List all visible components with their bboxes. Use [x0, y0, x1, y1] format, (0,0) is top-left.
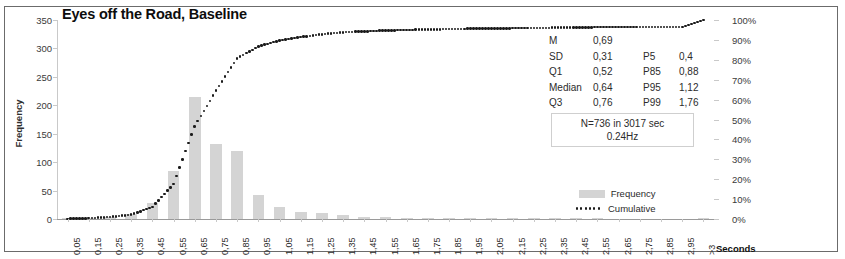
y-tick-mark	[53, 77, 57, 78]
cumulative-dot	[333, 32, 336, 35]
statistic-value: 0,52	[593, 66, 643, 82]
y2-tick-label: 100%	[732, 15, 756, 26]
cumulative-dot	[160, 196, 163, 199]
sample-size-line: N=736 in 3017 sec	[581, 117, 665, 130]
cumulative-dot	[548, 27, 551, 30]
cumulative-dot	[327, 32, 330, 35]
y2-tick-mark	[714, 159, 719, 160]
cumulative-dot	[187, 142, 190, 145]
y2-tick-label: 0%	[732, 214, 746, 225]
cumulative-dot	[209, 100, 212, 103]
x-tick-mark	[174, 219, 175, 222]
cumulative-dot	[151, 206, 154, 209]
cumulative-dot	[639, 26, 642, 29]
x-tick-mark	[619, 219, 620, 222]
x-tick-mark	[470, 219, 471, 222]
x-tick-mark	[237, 219, 238, 222]
x-tick-mark	[68, 219, 69, 222]
cumulative-dot	[118, 215, 121, 218]
y2-tick-mark	[714, 40, 719, 41]
x-tick-label: 2,65	[623, 237, 633, 255]
cumulative-dot	[215, 89, 218, 92]
x-tick-label: 1,65	[411, 237, 421, 255]
statistic-value: 0,31	[593, 51, 643, 67]
x-tick-label: 2,95	[686, 237, 696, 255]
x-tick-label: 0,85	[241, 237, 251, 255]
cumulative-dot	[442, 28, 445, 31]
x-tick-label: 0,45	[156, 237, 166, 255]
cumulative-dot	[103, 216, 106, 219]
cumulative-dot	[551, 26, 554, 29]
x-tick-label: 1,95	[474, 237, 484, 255]
cumulative-dot	[427, 28, 430, 31]
x-tick-label: 2,05	[495, 237, 505, 255]
y2-tick-mark	[714, 20, 719, 21]
cumulative-dot	[339, 31, 342, 34]
y-tick-label: 300	[6, 43, 52, 54]
y2-tick-mark	[714, 219, 719, 220]
percentile-value	[679, 35, 729, 51]
y2-tick-mark	[714, 80, 719, 81]
cumulative-dot	[312, 34, 315, 37]
cumulative-dot	[218, 85, 221, 88]
y2-tick-label: 40%	[732, 134, 751, 145]
cumulative-dot	[651, 26, 654, 29]
percentile-value: 0,88	[679, 66, 729, 82]
x-tick-mark	[576, 219, 577, 222]
cumulative-dot	[184, 150, 187, 153]
cumulative-dot	[421, 28, 424, 31]
cumulative-dot	[648, 26, 651, 29]
percentile-value: 0,4	[679, 51, 729, 67]
statistic-name: M	[549, 35, 593, 51]
cumulative-dot	[169, 186, 172, 189]
cumulative-dot	[309, 35, 312, 38]
y2-tick-label: 80%	[732, 54, 751, 65]
cumulative-dot	[554, 26, 557, 29]
statistic-name: Q3	[549, 97, 593, 113]
y2-tick-mark	[714, 60, 719, 61]
cumulative-dot	[91, 217, 94, 220]
cumulative-dot	[166, 189, 169, 192]
legend-item-frequency: Frequency	[576, 186, 656, 201]
x-tick-mark	[343, 219, 344, 222]
legend-label-frequency: Frequency	[611, 188, 656, 199]
x-tick-label: 2,55	[601, 237, 611, 255]
cumulative-dot	[203, 110, 206, 113]
x-tick-mark	[110, 219, 111, 222]
cumulative-dot	[230, 66, 233, 69]
cumulative-dot	[178, 166, 181, 169]
cumulative-dot	[533, 27, 536, 30]
cumulative-dot	[418, 28, 421, 31]
legend-dotted-line-icon	[576, 205, 602, 213]
statistic-name: Median	[549, 82, 593, 98]
x-tick-label: 1,45	[368, 237, 378, 255]
y2-tick-label: 50%	[732, 114, 751, 125]
x-tick-label: 2,85	[665, 237, 675, 255]
x-tick-mark	[703, 219, 704, 222]
cumulative-dot	[336, 32, 339, 35]
x-tick-mark	[661, 219, 662, 222]
cumulative-dot	[100, 216, 103, 219]
cumulative-dot	[430, 28, 433, 31]
y-tick-mark	[53, 219, 57, 220]
statistics-row: M0,69	[549, 35, 729, 51]
statistic-value: 0,64	[593, 82, 643, 98]
x-tick-mark	[640, 219, 641, 222]
y2-tick-label: 30%	[732, 154, 751, 165]
cumulative-dot	[539, 27, 542, 30]
x-tick-label: 0,15	[93, 237, 103, 255]
x-tick-label: 2,75	[644, 237, 654, 255]
cumulative-dot	[642, 26, 645, 29]
x-axis-label: Seconds	[716, 243, 756, 254]
cumulative-dot	[227, 71, 230, 74]
cumulative-dot	[536, 27, 539, 30]
x-tick-label: 1,55	[390, 237, 400, 255]
x-tick-mark	[280, 219, 281, 222]
chart-figure: Eyes off the Road, Baseline 050100150200…	[0, 0, 845, 259]
cumulative-dot	[654, 26, 657, 29]
x-tick-label: 0,75	[220, 237, 230, 255]
statistics-row: Q10,52P850,88	[549, 66, 729, 82]
cumulative-dot	[324, 33, 327, 36]
cumulative-dot	[542, 27, 545, 30]
percentile-name	[643, 35, 679, 51]
